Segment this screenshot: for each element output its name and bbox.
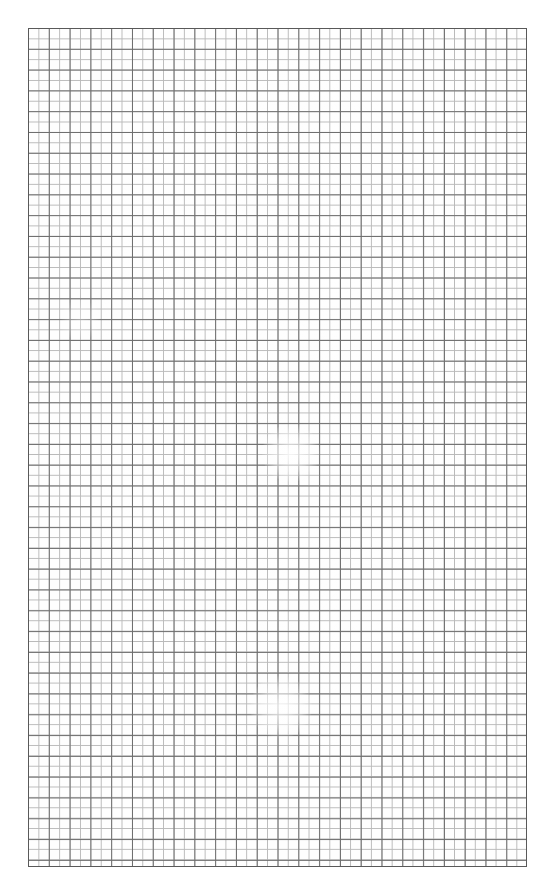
- scan-fade-artifact: [262, 424, 320, 482]
- scan-fade-artifact: [60, 300, 100, 340]
- page-canvas: [0, 0, 556, 895]
- paper-texture-overlay: [28, 28, 527, 867]
- scan-fade-artifact: [250, 676, 312, 738]
- grid-outer-frame: [28, 28, 527, 867]
- graph-paper-sheet: [28, 28, 527, 867]
- grid-strong-lines: [28, 28, 527, 867]
- grid-fine-lines: [28, 28, 527, 867]
